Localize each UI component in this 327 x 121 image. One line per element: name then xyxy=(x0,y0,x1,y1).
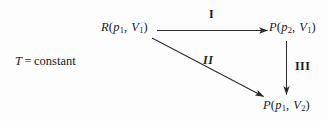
comma: , xyxy=(124,20,128,34)
comma: , xyxy=(286,98,290,112)
arrow-ii-diagonal xyxy=(152,38,264,97)
condition-symbol: T xyxy=(15,54,22,68)
node-source-function: R xyxy=(101,20,109,34)
node-source-arg2: V xyxy=(131,20,139,34)
edge-label-iii: III xyxy=(295,60,310,72)
node-top-right-arg2: V xyxy=(299,20,307,34)
close-paren: ) xyxy=(311,20,315,34)
comma: , xyxy=(292,20,296,34)
condition-value: constant xyxy=(34,54,76,68)
node-top-right-function: P xyxy=(269,20,277,34)
node-bottom-right-function: P xyxy=(263,98,271,112)
node-bottom-right: P(p1, V2) xyxy=(263,99,310,113)
condition-operator: = xyxy=(22,54,34,68)
condition-label: T=constant xyxy=(15,55,76,68)
node-top-right: P(p2, V1) xyxy=(269,21,316,35)
node-bottom-right-arg2: V xyxy=(293,98,301,112)
edge-label-ii: II xyxy=(203,54,213,66)
diagram-canvas: T=constant R(p1, V1) P(p2, V1) P(p1, V2)… xyxy=(0,0,327,121)
edge-label-i: I xyxy=(209,8,214,20)
close-paren: ) xyxy=(305,98,309,112)
node-source: R(p1, V1) xyxy=(101,21,148,35)
close-paren: ) xyxy=(143,20,147,34)
